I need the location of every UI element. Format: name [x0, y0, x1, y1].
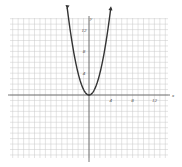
x-tick-label: 12	[152, 98, 158, 103]
y-tick-label: 8	[83, 49, 86, 54]
parabola-graph: xy 48124812	[0, 0, 182, 167]
arrowhead-icon	[109, 6, 113, 10]
x-axis-label: x	[171, 93, 175, 98]
y-tick-label: 12	[82, 28, 88, 33]
y-tick-label: 4	[83, 71, 86, 76]
axes: xy	[8, 16, 175, 162]
